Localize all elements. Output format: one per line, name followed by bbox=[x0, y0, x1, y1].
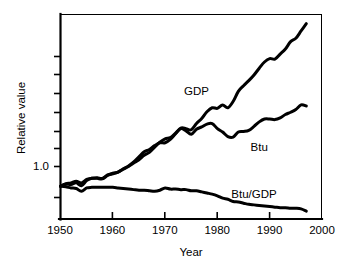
y-tick-label-1-0: 1.0 bbox=[33, 160, 49, 172]
series-line-gdp bbox=[61, 24, 307, 187]
data-series-group bbox=[61, 24, 307, 211]
x-tick-label-1990: 1990 bbox=[257, 224, 283, 236]
series-line-btu bbox=[61, 105, 307, 186]
series-labels-group: GDP Btu Btu/GDP bbox=[184, 85, 277, 200]
x-axis-tick-labels: 1950 1960 1970 1980 1990 2000 bbox=[47, 224, 335, 236]
chart-svg: 1.0 Relative value 1950 1960 1970 1980 1… bbox=[0, 0, 349, 273]
x-tick-label-1970: 1970 bbox=[152, 224, 178, 236]
y-axis-title: Relative value bbox=[15, 82, 27, 154]
chart-figure: 1.0 Relative value 1950 1960 1970 1980 1… bbox=[0, 0, 349, 273]
x-tick-label-1980: 1980 bbox=[204, 224, 230, 236]
series-label-btu: Btu bbox=[251, 141, 268, 153]
x-tick-label-1960: 1960 bbox=[100, 224, 126, 236]
x-tick-label-2000: 2000 bbox=[309, 224, 335, 236]
series-label-btu-gdp: Btu/GDP bbox=[231, 188, 277, 200]
x-axis-title: Year bbox=[179, 246, 202, 258]
x-tick-label-1950: 1950 bbox=[47, 224, 73, 236]
series-label-gdp: GDP bbox=[184, 85, 209, 97]
